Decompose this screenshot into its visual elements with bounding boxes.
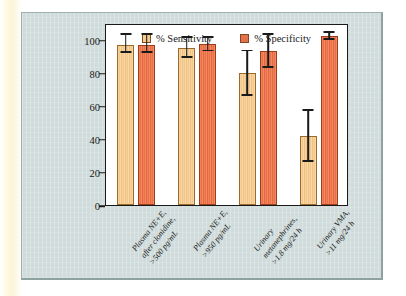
error-bar-cap-upper [181, 36, 192, 38]
bar-rect [321, 36, 338, 205]
figure-page: 020406080100 % Sensitivity% Specificity … [0, 0, 406, 296]
error-bar-line [146, 35, 148, 53]
error-bar-cap-lower [263, 66, 274, 68]
error-bar-cap-lower [303, 160, 314, 162]
y-axis-tick-label: 20 [90, 167, 101, 178]
bar-sensitivity [178, 23, 195, 205]
bar-group [167, 25, 228, 205]
y-axis-tick-label: 0 [95, 201, 100, 212]
plot-area [106, 25, 347, 205]
error-bar-line [186, 38, 188, 58]
bar-sensitivity [117, 23, 134, 205]
bar-specificity [260, 23, 277, 205]
bar-group [228, 25, 289, 205]
error-bar-cap-upper [324, 31, 335, 33]
bar-group [288, 25, 349, 205]
bar-rect [199, 44, 216, 205]
x-axis-category-label: Urinarymetanephrines,>1.8 mg/24 h [252, 208, 309, 268]
error-bar-line [268, 35, 270, 68]
y-axis-tick-label: 40 [90, 134, 101, 145]
error-bar-cap-lower [120, 51, 131, 53]
plot-frame: % Sensitivity% Specificity [105, 24, 348, 206]
bar-rect [260, 51, 277, 205]
error-bar-cap-lower [141, 51, 152, 53]
error-bar-cap-upper [202, 36, 213, 38]
error-bar-line [125, 35, 127, 53]
y-axis-tick-label: 100 [84, 35, 100, 46]
bar-rect [138, 45, 155, 205]
bar-rect [117, 45, 134, 205]
error-bar-cap-upper [120, 33, 131, 35]
x-axis-category-label: Plasma NE+E,after clonidine,>500 pg/mL [131, 208, 187, 267]
error-bar-cap-lower [202, 50, 213, 52]
x-axis-category-labels: Plasma NE+E,after clonidine,>500 pg/mLPl… [105, 208, 348, 292]
y-axis-tick-label: 80 [90, 68, 101, 79]
y-axis-tick-labels: 020406080100 [60, 24, 100, 206]
bar-specificity [138, 23, 155, 205]
bar-rect [178, 48, 195, 205]
error-bar-cap-upper [141, 33, 152, 35]
error-bar-cap-upper [303, 109, 314, 111]
bar-sensitivity [300, 23, 317, 205]
bar-specificity [321, 23, 338, 205]
error-bar-line [307, 111, 309, 162]
x-axis-category-label: Plasma NE+E,>950 pg/mL [192, 208, 240, 260]
error-bar-cap-upper [263, 33, 274, 35]
bar-sensitivity [239, 23, 256, 205]
y-axis-tick-label: 60 [90, 101, 101, 112]
bar-group [106, 25, 167, 205]
error-bar-line [247, 51, 249, 96]
error-bar-cap-lower [324, 38, 335, 40]
error-bar-cap-lower [242, 94, 253, 96]
error-bar-cap-upper [242, 50, 253, 52]
bar-specificity [199, 23, 216, 205]
error-bar-cap-lower [181, 56, 192, 58]
